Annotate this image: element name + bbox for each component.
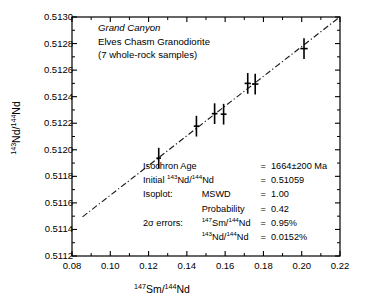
x-axis-title-elem2: Nd (176, 283, 189, 295)
y-tick-label: 0.5124 (27, 91, 73, 102)
y-tick-label: 0.5118 (27, 170, 73, 181)
results-sublabel: MSWD (202, 188, 256, 202)
results-block: Isochron Age=1664±200 MaInitial 143Nd/14… (143, 160, 327, 245)
results-sublabel (202, 160, 256, 174)
results-value: 1664±200 Ma (271, 160, 327, 174)
x-tick-label: 0.18 (243, 260, 283, 271)
chart-header-block: Grand Canyon Elves Chasm Granodiorite (7… (98, 21, 210, 62)
x-tick-label: 0.08 (52, 260, 92, 271)
results-equals: = (256, 203, 271, 217)
results-row: Isoplot:MSWD=1.00 (143, 188, 327, 202)
y-axis-title-mass1: 143 (10, 143, 18, 155)
y-axis-title: 143Nd/144Nd (10, 78, 22, 178)
x-axis-title: 147Sm/144Nd (134, 283, 190, 295)
results-equals: = (256, 217, 271, 231)
y-axis-title-elem2: Nd (10, 101, 22, 114)
results-sublabel: Probability (202, 203, 256, 217)
y-tick-label: 0.5130 (27, 11, 73, 22)
results-equals: = (256, 188, 271, 202)
results-row: 2σ errors:147Sm/144Nd=0.95% (143, 217, 327, 231)
x-tick-label: 0.12 (129, 260, 169, 271)
y-tick-label: 0.5128 (27, 38, 73, 49)
results-equals: = (256, 160, 271, 174)
x-axis-title-mass1: 147 (134, 283, 146, 291)
header-unit-name: Elves Chasm Granodiorite (98, 35, 210, 49)
y-tick-label: 0.5126 (27, 64, 73, 75)
results-value: 0.42 (271, 203, 327, 217)
results-label (143, 231, 202, 245)
results-label: Initial 143Nd/144Nd (143, 174, 256, 188)
results-label (143, 203, 202, 217)
results-label: 2σ errors: (143, 217, 202, 231)
x-tick-label: 0.14 (167, 260, 207, 271)
y-tick-label: 0.5120 (27, 144, 73, 155)
header-sample-count: (7 whole-rock samples) (98, 48, 210, 62)
results-row: 143Nd/144Nd=0.0152% (143, 231, 327, 245)
results-equals: = (256, 174, 271, 188)
results-label: Isoplot: (143, 188, 202, 202)
results-table: Isochron Age=1664±200 MaInitial 143Nd/14… (143, 160, 327, 245)
y-axis-title-elem1: Nd/ (10, 127, 22, 143)
header-locality: Grand Canyon (98, 21, 210, 35)
x-tick-label: 0.16 (205, 260, 245, 271)
results-sublabel: 147Sm/144Nd (202, 217, 256, 231)
x-axis-title-elem1: Sm/ (146, 283, 165, 295)
y-tick-label: 0.5114 (27, 223, 73, 234)
x-tick-label: 0.10 (90, 260, 130, 271)
results-value: 0.0152% (271, 231, 327, 245)
x-tick-label: 0.22 (320, 260, 360, 271)
results-row: Probability=0.42 (143, 203, 327, 217)
results-label: Isochron Age (143, 160, 202, 174)
results-value: 0.51059 (271, 174, 327, 188)
x-axis-title-mass2: 144 (165, 283, 177, 291)
y-tick-label: 0.5122 (27, 117, 73, 128)
x-tick-label: 0.20 (282, 260, 322, 271)
results-value: 1.00 (271, 188, 327, 202)
results-row: Isochron Age=1664±200 Ma (143, 160, 327, 174)
results-equals: = (256, 231, 271, 245)
results-row: Initial 143Nd/144Nd=0.51059 (143, 174, 327, 188)
results-sublabel: 143Nd/144Nd (202, 231, 256, 245)
y-tick-label: 0.5116 (27, 197, 73, 208)
results-value: 0.95% (271, 217, 327, 231)
y-axis-title-mass2: 144 (10, 115, 18, 127)
